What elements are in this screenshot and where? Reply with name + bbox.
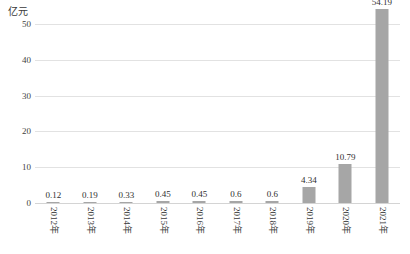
bar[interactable] bbox=[83, 202, 96, 204]
bar[interactable] bbox=[120, 202, 133, 204]
x-axis-tick: 2020年 bbox=[327, 205, 364, 254]
bar[interactable] bbox=[339, 164, 352, 203]
bar[interactable] bbox=[156, 201, 169, 203]
bar[interactable] bbox=[302, 187, 315, 203]
y-axis-tick-label: 0 bbox=[1, 199, 31, 208]
bar-group: 0.12 bbox=[35, 24, 72, 203]
bar[interactable] bbox=[266, 201, 279, 203]
bar-group: 0.6 bbox=[218, 24, 255, 203]
x-axis-tick: 2021年 bbox=[364, 205, 401, 254]
bar[interactable] bbox=[47, 202, 60, 204]
x-axis-tick: 2013年 bbox=[72, 205, 109, 254]
y-axis-tick-label: 40 bbox=[1, 55, 31, 64]
x-axis-tick: 2012年 bbox=[35, 205, 72, 254]
x-axis-category-labels: 2012年2013年2014年2015年2016年2017年2018年2019年… bbox=[35, 205, 400, 254]
x-axis-category-label: 2018年 bbox=[268, 207, 277, 234]
bar-chart: 亿元 01020304050 0.120.190.330.450.450.60.… bbox=[0, 0, 410, 254]
y-axis-tick-label: 30 bbox=[1, 91, 31, 100]
bar-value-label: 54.19 bbox=[372, 0, 392, 7]
x-axis-category-label: 2014年 bbox=[122, 207, 131, 234]
x-axis-tick: 2015年 bbox=[145, 205, 182, 254]
bar-value-label: 0.19 bbox=[82, 190, 98, 200]
x-axis-category-label: 2013年 bbox=[85, 207, 94, 234]
bar-group: 0.45 bbox=[181, 24, 218, 203]
x-axis-tick: 2019年 bbox=[291, 205, 328, 254]
x-axis-category-label: 2016年 bbox=[195, 207, 204, 234]
gridline bbox=[35, 203, 400, 204]
bar-value-label: 0.45 bbox=[191, 189, 207, 199]
x-axis-category-label: 2012年 bbox=[49, 207, 58, 234]
bar-value-label: 0.6 bbox=[230, 189, 241, 199]
plot-area: 0.120.190.330.450.450.60.64.3410.7954.19 bbox=[35, 24, 400, 203]
x-axis-tick: 2018年 bbox=[254, 205, 291, 254]
bar[interactable] bbox=[229, 201, 242, 203]
bar-value-label: 0.12 bbox=[45, 190, 61, 200]
x-axis-category-label: 2017年 bbox=[231, 207, 240, 234]
x-axis-category-label: 2021年 bbox=[377, 207, 386, 234]
bar-value-label: 4.34 bbox=[301, 175, 317, 185]
y-axis-tick-labels: 01020304050 bbox=[0, 24, 31, 203]
bar-value-label: 0.33 bbox=[118, 190, 134, 200]
y-axis-tick-label: 10 bbox=[1, 163, 31, 172]
y-axis-tick-label: 20 bbox=[1, 127, 31, 136]
x-axis-tick: 2016年 bbox=[181, 205, 218, 254]
x-axis-category-label: 2015年 bbox=[158, 207, 167, 234]
bar[interactable] bbox=[193, 201, 206, 203]
bar-value-label: 0.45 bbox=[155, 189, 171, 199]
bar-group: 54.19 bbox=[364, 24, 401, 203]
bar-group: 0.6 bbox=[254, 24, 291, 203]
bar-value-label: 0.6 bbox=[267, 189, 278, 199]
bar-group: 0.45 bbox=[145, 24, 182, 203]
y-axis-tick-label: 50 bbox=[1, 20, 31, 29]
bar-group: 4.34 bbox=[291, 24, 328, 203]
bar-group: 0.33 bbox=[108, 24, 145, 203]
x-axis-tick: 2014年 bbox=[108, 205, 145, 254]
x-axis-category-label: 2020年 bbox=[341, 207, 350, 234]
x-axis-category-label: 2019年 bbox=[304, 207, 313, 234]
y-axis-unit-label: 亿元 bbox=[8, 6, 28, 18]
bar[interactable] bbox=[375, 9, 388, 203]
bar-group: 10.79 bbox=[327, 24, 364, 203]
x-axis-tick: 2017年 bbox=[218, 205, 255, 254]
bar-group: 0.19 bbox=[72, 24, 109, 203]
bar-value-label: 10.79 bbox=[335, 152, 355, 162]
